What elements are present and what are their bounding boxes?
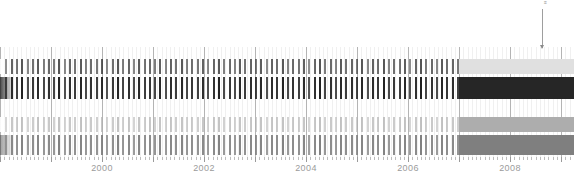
axis-month-tick — [553, 157, 554, 160]
month-tick — [282, 135, 284, 155]
month-tick — [393, 59, 395, 74]
month-tick — [409, 59, 411, 74]
month-tick — [5, 135, 7, 155]
month-tick — [197, 117, 199, 132]
month-tick — [144, 117, 146, 132]
month-tick — [250, 117, 252, 132]
month-tick — [181, 117, 183, 132]
month-tick — [128, 117, 130, 132]
axis-month-tick — [43, 157, 44, 160]
month-tick — [356, 59, 358, 74]
month-tick — [266, 77, 268, 99]
month-tick — [266, 59, 268, 74]
axis-month-tick — [438, 157, 439, 160]
month-tick — [37, 117, 39, 132]
axis-month-tick — [395, 157, 396, 160]
month-tick — [271, 135, 273, 155]
month-tick — [53, 77, 55, 99]
month-tick — [372, 77, 374, 99]
month-tick — [175, 59, 177, 74]
axis-month-tick — [13, 157, 14, 160]
month-tick — [436, 135, 438, 155]
month-tick — [303, 117, 305, 132]
month-tick — [96, 135, 98, 155]
axis-month-tick — [298, 157, 299, 160]
axis-year-tick — [408, 157, 409, 162]
month-tick — [330, 117, 332, 132]
month-tick — [452, 77, 454, 99]
month-tick — [128, 77, 130, 99]
month-tick — [345, 117, 347, 132]
month-tick — [106, 59, 108, 74]
axis-month-tick — [213, 157, 214, 160]
month-tick — [260, 59, 262, 74]
axis-month-tick — [128, 157, 129, 160]
month-tick — [452, 59, 454, 74]
month-tick — [324, 59, 326, 74]
month-tick — [58, 135, 60, 155]
month-tick — [314, 77, 316, 99]
month-tick — [197, 135, 199, 155]
month-tick — [260, 135, 262, 155]
month-tick — [96, 59, 98, 74]
month-tick — [43, 59, 45, 74]
month-tick — [74, 59, 76, 74]
axis-month-tick — [476, 157, 477, 160]
month-tick — [96, 117, 98, 132]
axis-month-tick — [463, 157, 464, 160]
month-tick — [260, 117, 262, 132]
event-annotation-label: ≡ — [544, 0, 547, 5]
month-tick — [388, 135, 390, 155]
axis-label-2000: 2000 — [91, 163, 113, 173]
axis-month-tick — [391, 157, 392, 160]
axis-month-tick — [493, 157, 494, 160]
month-tick — [96, 77, 98, 99]
month-tick — [37, 135, 39, 155]
axis-month-tick — [336, 157, 337, 160]
month-tick — [250, 59, 252, 74]
month-tick — [69, 117, 71, 132]
month-tick — [64, 77, 66, 99]
axis-year-tick — [357, 157, 358, 162]
month-tick — [32, 135, 34, 155]
month-tick — [223, 59, 225, 74]
month-tick — [27, 77, 29, 99]
month-tick — [303, 135, 305, 155]
axis-month-tick — [446, 157, 447, 160]
month-tick — [21, 135, 23, 155]
month-tick — [133, 59, 135, 74]
month-tick — [138, 117, 140, 132]
axis-month-tick — [370, 157, 371, 160]
axis-month-tick — [374, 157, 375, 160]
axis-month-tick — [68, 157, 69, 160]
month-tick — [292, 117, 294, 132]
month-tick — [58, 77, 60, 99]
month-tick — [431, 59, 433, 74]
axis-year-tick — [510, 157, 511, 162]
axis-month-tick — [310, 157, 311, 160]
month-tick — [298, 135, 300, 155]
month-tick — [356, 135, 358, 155]
month-tick — [229, 117, 231, 132]
month-tick — [314, 117, 316, 132]
month-tick — [298, 59, 300, 74]
axis-month-tick — [527, 157, 528, 160]
month-tick — [340, 59, 342, 74]
axis-month-tick — [179, 157, 180, 160]
month-tick — [64, 59, 66, 74]
month-tick — [122, 77, 124, 99]
axis-month-tick — [162, 157, 163, 160]
axis-month-tick — [191, 157, 192, 160]
month-tick — [372, 135, 374, 155]
month-tick — [207, 77, 209, 99]
month-tick — [298, 117, 300, 132]
month-tick — [197, 77, 199, 99]
month-tick — [399, 117, 401, 132]
month-tick — [457, 135, 459, 155]
axis-month-tick — [353, 157, 354, 160]
month-tick — [154, 135, 156, 155]
solid-fill-region — [459, 117, 574, 132]
axis-month-tick — [570, 157, 571, 160]
axis-month-tick — [268, 157, 269, 160]
month-tick — [420, 59, 422, 74]
